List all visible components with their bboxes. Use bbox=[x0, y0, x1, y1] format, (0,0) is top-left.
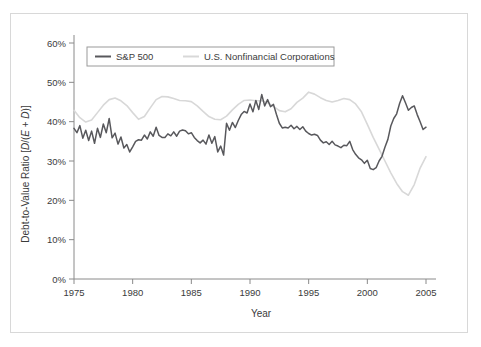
y-tick-label: 10% bbox=[47, 234, 67, 245]
svg-text:Debt-to-Value Ratio [D/(E + D): Debt-to-Value Ratio [D/(E + D)] bbox=[20, 105, 31, 243]
plot-area: 0%10%20%30%40%50%60% 1975198019851990199… bbox=[11, 14, 469, 334]
y-tick-label: 30% bbox=[47, 156, 67, 167]
y-tick-label: 40% bbox=[47, 116, 67, 127]
x-tick-label: 1990 bbox=[239, 287, 260, 298]
x-tick-label: 2000 bbox=[357, 287, 378, 298]
y-tick-label: 0% bbox=[52, 274, 66, 285]
x-axis-title: Year bbox=[251, 308, 272, 319]
x-tick-label: 1995 bbox=[298, 287, 319, 298]
y-tick-label: 20% bbox=[47, 195, 67, 206]
chart-svg: 0%10%20%30%40%50%60% 1975198019851990199… bbox=[11, 14, 469, 334]
legend-label-us-nonfinancial-corporations: U.S. Nonfinancial Corporations bbox=[204, 51, 335, 62]
chart-figure: 0%10%20%30%40%50%60% 1975198019851990199… bbox=[10, 13, 468, 333]
y-axis-ticks: 0%10%20%30%40%50%60% bbox=[47, 38, 74, 285]
y-tick-label: 50% bbox=[47, 77, 67, 88]
x-tick-label: 1985 bbox=[181, 287, 202, 298]
y-tick-label: 60% bbox=[47, 38, 67, 49]
series-line-us-nonfinancial-corporations bbox=[74, 92, 426, 195]
y-axis-title: Debt-to-Value Ratio [D/(E + D)] bbox=[20, 105, 31, 243]
x-tick-label: 1975 bbox=[63, 287, 84, 298]
x-axis-ticks: 1975198019851990199520002005 bbox=[63, 279, 436, 298]
x-tick-label: 2005 bbox=[415, 287, 436, 298]
chart-legend: S&P 500 U.S. Nonfinancial Corporations bbox=[87, 47, 335, 66]
legend-label-sp500: S&P 500 bbox=[116, 51, 153, 62]
x-tick-label: 1980 bbox=[122, 287, 143, 298]
